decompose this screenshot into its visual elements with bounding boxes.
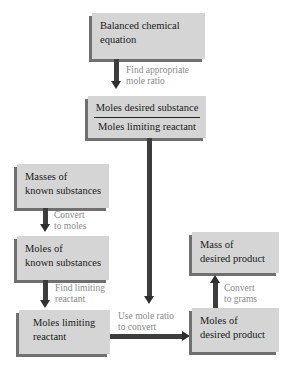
edge-text: reactant — [55, 294, 105, 305]
node-moles-product: Moles of desired product — [192, 308, 279, 352]
edge-label-find-ratio: Find appropriate mole ratio — [126, 65, 189, 87]
node-masses-known: Masses of known substances — [17, 164, 109, 208]
edge-label-convert-grams: Convert to grams — [224, 283, 257, 305]
edge-text: to convert — [118, 322, 174, 333]
arrow-shaft — [114, 59, 119, 81]
arrow-down-icon — [40, 300, 50, 308]
edge-text: Use mole ratio — [118, 311, 174, 322]
node-text: equation — [100, 33, 197, 47]
arrow-down-icon — [144, 296, 154, 304]
arrow-down-icon — [111, 81, 121, 89]
node-text: Moles limiting — [33, 316, 102, 330]
arrow-shaft — [213, 283, 218, 308]
node-text: Mass of — [200, 238, 271, 252]
edge-label-use-ratio: Use mole ratio to convert — [118, 311, 174, 333]
arrow-shaft — [110, 334, 182, 339]
node-moles-known: Moles of known substances — [17, 236, 109, 280]
arrow-shaft — [147, 138, 152, 296]
arrow-shaft — [43, 280, 48, 300]
arrow-shaft — [43, 208, 48, 224]
node-mole-ratio: Moles desired substance Moles limiting r… — [88, 96, 206, 138]
arrow-down-icon — [40, 224, 50, 232]
node-text: known substances — [25, 256, 101, 270]
edge-text: to grams — [224, 294, 257, 305]
node-balanced-equation: Balanced chemical equation — [92, 13, 205, 59]
edge-text: Convert — [224, 283, 257, 294]
edge-text: to moles — [54, 221, 86, 232]
node-text: desired product — [200, 328, 271, 342]
node-text: reactant — [33, 330, 102, 344]
node-text: Moles of — [25, 242, 101, 256]
edge-label-convert-moles: Convert to moles — [54, 210, 86, 232]
node-mass-product: Mass of desired product — [192, 232, 279, 273]
node-text: Masses of — [25, 170, 101, 184]
edge-label-find-limiting: Find limiting reactant — [55, 283, 105, 305]
arrow-up-icon — [210, 275, 220, 283]
node-text: Balanced chemical — [100, 19, 197, 33]
arrow-right-icon — [182, 331, 190, 341]
edge-text: Find appropriate — [126, 65, 189, 76]
node-text: known substances — [25, 184, 101, 198]
node-text: desired product — [200, 252, 271, 266]
node-moles-limiting: Moles limiting reactant — [19, 310, 110, 354]
edge-text: Find limiting — [55, 283, 105, 294]
edge-text: Convert — [54, 210, 86, 221]
edge-text: mole ratio — [126, 76, 189, 87]
node-text: Moles of — [200, 314, 271, 328]
ratio-denominator: Moles limiting reactant — [92, 118, 202, 134]
ratio-numerator: Moles desired substance — [94, 101, 200, 118]
